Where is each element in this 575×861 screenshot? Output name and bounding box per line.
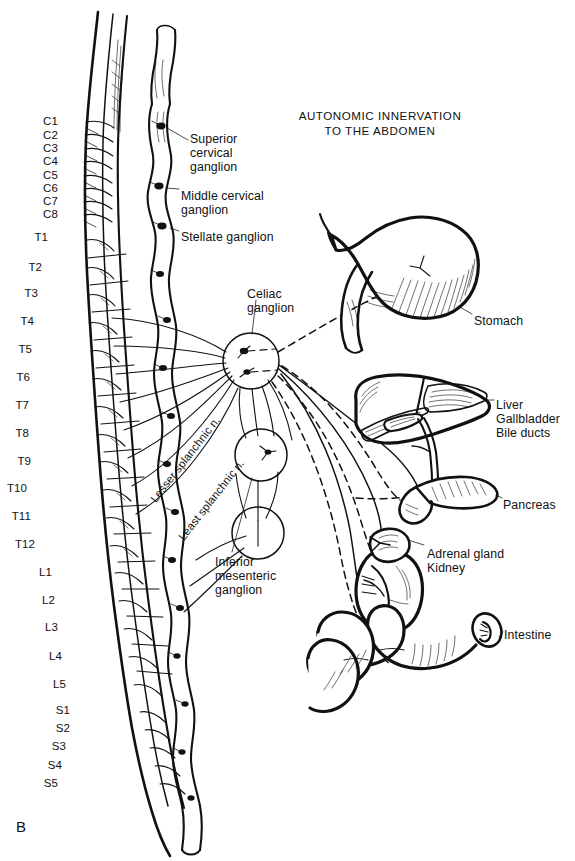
spinal-level-t6: T6 [4,371,30,384]
label-intestine: Intestine [504,629,551,643]
spinal-level-t12: T12 [9,538,35,551]
label-inferior-mesenteric-ganglion-line-2: mesenteric [215,570,276,584]
label-middle-cervical-ganglion-line-1: Middle cervical [181,190,264,204]
label-celiac-ganglion-line-2: ganglion [247,302,294,316]
figure-title-line-2: TO THE ABDOMEN [282,123,478,138]
spinal-level-t1: T1 [22,231,48,244]
spinal-level-t1-line-1: T1 [22,231,48,244]
spinal-level-t3-line-1: T3 [12,287,38,300]
spinal-level-l1: L1 [26,566,52,579]
spinal-level-t2-line-1: T2 [16,261,42,274]
spinal-level-l5-line-1: L5 [40,678,66,691]
liver-illustration [356,375,490,480]
spinal-level-c1-line-1: C1 [32,115,58,128]
inferior-mesenteric-ganglion [235,429,287,481]
label-superior-cervical-ganglion: Superiorcervicalganglion [190,133,237,174]
label-kidney-group: Adrenal glandKidney [427,548,504,576]
label-liver-group: LiverGallbladderBile ducts [496,399,560,440]
spinal-level-l3-line-1: L3 [32,621,58,634]
spinal-level-s5-line-1: S5 [32,777,58,790]
label-kidney-group-line-2: Kidney [427,562,504,576]
label-kidney-group-line-1: Adrenal gland [427,548,504,562]
label-inferior-mesenteric-ganglion-line-3: ganglion [215,584,276,598]
label-pancreas: Pancreas [503,499,556,513]
figure-title: AUTONOMIC INNERVATION TO THE ABDOMEN [282,108,478,139]
spinal-level-c2-line-1: C2 [32,129,58,142]
spinal-level-t11-line-1: T11 [5,510,31,523]
spinal-level-s1-line-1: S1 [44,704,70,717]
celiac-ganglion [223,333,279,389]
spinal-level-t10: T10 [1,482,27,495]
label-superior-cervical-ganglion-line-2: cervical [190,147,237,161]
label-middle-cervical-ganglion: Middle cervicalganglion [181,190,264,218]
spinal-level-s1: S1 [44,704,70,717]
spinal-level-c7-line-1: C7 [32,195,58,208]
spinal-level-s3: S3 [40,740,66,753]
label-inferior-mesenteric-ganglion-line-1: Inferior [215,556,276,570]
label-inferior-mesenteric-ganglion: Inferiormesentericganglion [215,556,276,597]
spinal-level-c6: C6 [32,182,58,195]
stomach-illustration [320,214,478,353]
label-pancreas-line-1: Pancreas [503,499,556,513]
spinal-level-s4-line-1: S4 [36,759,62,772]
label-stomach-line-1: Stomach [474,315,523,329]
spinal-level-c7: C7 [32,195,58,208]
spinal-level-t4: T4 [8,315,34,328]
spinal-level-c1: C1 [32,115,58,128]
spinal-level-s4: S4 [36,759,62,772]
label-middle-cervical-ganglion-line-2: ganglion [181,204,264,218]
label-superior-cervical-ganglion-line-1: Superior [190,133,237,147]
spinal-level-c4-line-1: C4 [32,155,58,168]
label-stomach: Stomach [474,315,523,329]
label-liver-group-line-1: Liver [496,399,560,413]
spinal-level-t4-line-1: T4 [8,315,34,328]
label-celiac-ganglion-line-1: Celiac [247,288,294,302]
pancreas-illustration [399,477,497,524]
spinal-level-c6-line-1: C6 [32,182,58,195]
spinal-level-t5-line-1: T5 [6,343,32,356]
label-stellate-ganglion-line-1: Stellate ganglion [181,231,274,245]
anatomy-figure-autonomic-innervation-abdomen: .ln { fill:none; stroke:#111111; stroke-… [0,0,575,861]
spinal-level-c8-line-1: C8 [32,208,58,221]
spinal-level-l2: L2 [29,594,55,607]
label-liver-group-line-3: Bile ducts [496,427,560,441]
spinal-level-t8-line-1: T8 [3,427,29,440]
spinal-level-c2: C2 [32,129,58,142]
spinal-level-c5: C5 [32,169,58,182]
spinal-level-s3-line-1: S3 [40,740,66,753]
spinal-level-c3-line-1: C3 [32,142,58,155]
label-celiac-ganglion: Celiacganglion [247,288,294,316]
spinal-level-t5: T5 [6,343,32,356]
spinal-level-t6-line-1: T6 [4,371,30,384]
spinal-level-c8: C8 [32,208,58,221]
spinal-level-t11: T11 [5,510,31,523]
spinal-level-s2: S2 [44,722,70,735]
spinal-level-t7-line-1: T7 [3,399,29,412]
spinal-level-t9: T9 [5,455,31,468]
label-intestine-line-1: Intestine [504,629,551,643]
label-stellate-ganglion: Stellate ganglion [181,231,274,245]
spinal-level-t2: T2 [16,261,42,274]
spinal-level-t7: T7 [3,399,29,412]
spinal-level-l4: L4 [36,650,62,663]
spinal-level-t10-line-1: T10 [1,482,27,495]
figure-title-line-1: AUTONOMIC INNERVATION [282,108,478,123]
spinal-level-c3: C3 [32,142,58,155]
label-superior-cervical-ganglion-line-3: ganglion [190,161,237,175]
spinal-level-t3: T3 [12,287,38,300]
spinal-level-l5: L5 [40,678,66,691]
spinal-level-l3: L3 [32,621,58,634]
panel-letter: B [16,818,26,835]
label-liver-group-line-2: Gallbladder [496,413,560,427]
spinal-level-t8: T8 [3,427,29,440]
spinal-level-s2-line-1: S2 [44,722,70,735]
vertebral-column [84,12,185,856]
spinal-level-l2-line-1: L2 [29,594,55,607]
spinal-level-t9-line-1: T9 [5,455,31,468]
spinal-level-s5: S5 [32,777,58,790]
spinal-level-l1-line-1: L1 [26,566,52,579]
spinal-level-t12-line-1: T12 [9,538,35,551]
spinal-level-c5-line-1: C5 [32,169,58,182]
spinal-level-c4: C4 [32,155,58,168]
spinal-level-l4-line-1: L4 [36,650,62,663]
